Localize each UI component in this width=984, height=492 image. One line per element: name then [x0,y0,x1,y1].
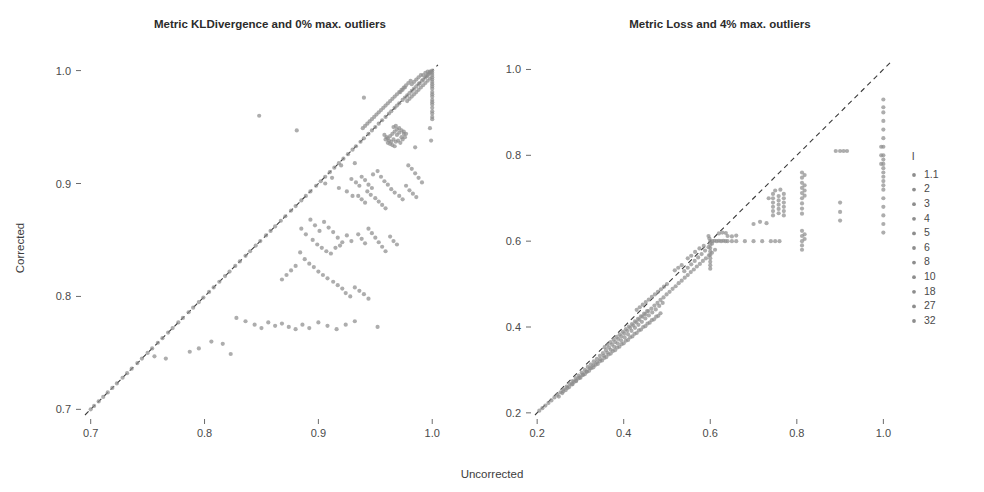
legend-item-label: 1.1 [924,168,939,180]
data-point [383,249,387,253]
data-point [371,172,375,176]
data-point [259,326,263,330]
data-point [782,209,786,213]
data-point [693,250,697,254]
data-point [773,188,777,192]
legend-item[interactable]: 5 [912,226,930,238]
data-point [777,198,781,202]
data-point [382,133,386,137]
data-point [386,183,390,187]
data-point [197,346,201,350]
data-point [661,295,665,299]
data-point [800,212,804,216]
data-point [702,244,706,248]
data-point [771,213,775,217]
data-point [700,252,704,256]
data-point [640,320,644,324]
data-point [782,192,786,196]
legend-item[interactable]: 3 [912,197,930,209]
legend-marker-icon [912,319,916,323]
legend-marker-icon [912,202,916,206]
data-point [410,167,414,171]
data-point [223,274,227,278]
data-point [803,173,807,177]
data-point [346,152,350,156]
data-point [330,176,334,180]
data-point [879,162,883,166]
legend-item-label: 4 [924,212,930,224]
data-point [248,249,252,253]
data-point [323,181,327,185]
data-point [345,233,349,237]
data-point [881,196,885,200]
legend-marker-icon [912,246,916,250]
legend-marker-icon [912,217,916,221]
data-point [881,110,885,114]
y-tick-label: 0.8 [56,290,71,302]
legend-item[interactable]: 6 [912,241,930,253]
data-point [287,325,291,329]
data-point [706,234,710,238]
data-point [89,407,93,411]
data-point [680,279,684,283]
data-point [838,218,842,222]
x-tick-label: 0.4 [616,427,631,439]
data-point [657,304,661,308]
data-point [633,326,637,330]
data-point [881,183,885,187]
data-point [337,186,341,190]
data-point [188,350,192,354]
legend-item[interactable]: 2 [912,182,930,194]
legend-title: l [912,150,914,162]
data-point [191,306,195,310]
legend-item[interactable]: 27 [912,299,936,311]
data-point [606,352,610,356]
data-point [581,373,585,377]
y-tick-label: 0.6 [506,235,521,247]
legend-item-label: 6 [924,241,930,253]
data-point [294,204,298,208]
x-tick-label: 0.9 [311,427,326,439]
legend-item[interactable]: 32 [912,314,936,326]
legend-item[interactable]: 10 [912,270,936,282]
data-point [389,187,393,191]
data-point [253,323,257,327]
data-point [363,178,367,182]
legend-item[interactable]: 18 [912,285,936,297]
data-point [667,290,671,294]
data-point [362,136,366,140]
data-point [264,233,268,237]
data-point [405,99,409,103]
data-point [549,398,553,402]
x-tick-label: 0.2 [530,427,545,439]
data-point [328,170,332,174]
data-point [325,276,329,280]
data-point [354,144,358,148]
data-point [299,198,303,202]
data-point [589,366,593,370]
data-point [771,200,775,204]
data-point [881,213,885,217]
legend-item[interactable]: 8 [912,255,930,267]
data-point [411,192,415,196]
data-point [649,306,653,310]
data-point [238,259,242,263]
data-point [800,201,804,205]
data-point [340,286,344,290]
data-point [300,323,304,327]
legend-item[interactable]: 4 [912,212,930,224]
data-point [273,324,277,328]
data-point [341,157,345,161]
data-point [243,319,247,323]
data-point [303,257,307,261]
data-point [881,179,885,183]
data-point [299,227,303,231]
legend-item-label: 27 [924,299,936,311]
data-point [650,310,654,314]
data-point [803,188,807,192]
data-point [322,220,326,224]
legend-item[interactable]: 1.1 [912,168,939,180]
data-point [777,207,781,211]
data-point [110,386,114,390]
data-point [725,239,729,243]
